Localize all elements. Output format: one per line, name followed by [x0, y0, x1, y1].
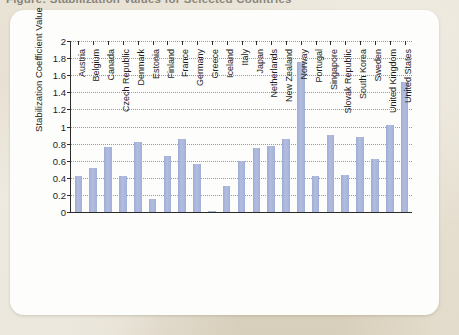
- bar: [327, 135, 335, 212]
- x-tick-label: Italy: [245, 32, 255, 49]
- x-tick-label: Germany: [200, 12, 210, 49]
- plot-area: 00.20.40.60.811.21.41.61.82 AustriaBelgi…: [70, 41, 412, 213]
- bar: [75, 176, 83, 212]
- bar: [371, 159, 379, 212]
- x-tick-label-text: Sweden: [373, 49, 383, 82]
- x-tick-label: United States: [408, 0, 418, 49]
- x-tick-label-text: Iceland: [225, 49, 235, 78]
- x-tick-label: South Korea: [363, 0, 373, 49]
- y-tick-mark: [67, 75, 71, 76]
- x-tick-mark: [108, 41, 109, 45]
- x-tick-label: Singapore: [334, 8, 344, 49]
- bar: [164, 156, 172, 212]
- x-tick-mark: [182, 41, 183, 45]
- y-tick-mark: [67, 178, 71, 179]
- y-tick-label: 1.4: [26, 88, 66, 98]
- y-tick-label: 1: [26, 123, 66, 133]
- bar: [223, 186, 231, 212]
- x-tick-mark: [227, 41, 228, 45]
- bar: [341, 175, 349, 212]
- bar: [178, 139, 186, 212]
- x-tick-label-text: Canada: [106, 49, 116, 81]
- x-tick-label: Estonia: [156, 19, 166, 49]
- x-tick-label: Austria: [82, 21, 92, 49]
- x-tick-label: Slovak Republic: [348, 0, 358, 49]
- x-tick-mark: [123, 41, 124, 45]
- x-tick-mark: [390, 41, 391, 45]
- x-tick-mark: [316, 41, 317, 45]
- x-tick-label: Finland: [171, 19, 181, 49]
- x-tick-label: Belgium: [96, 16, 106, 49]
- figure-caption: Figure: Stabilization Values for Selecte…: [6, 0, 292, 5]
- y-tick-mark: [67, 195, 71, 196]
- y-tick-label: 0.4: [26, 174, 66, 184]
- x-tick-mark: [345, 41, 346, 45]
- y-tick-label: 1.8: [26, 54, 66, 64]
- x-tick-mark: [375, 41, 376, 45]
- x-tick-mark: [78, 41, 79, 45]
- x-tick-label-text: Belgium: [91, 49, 101, 82]
- y-tick-label: 1.2: [26, 105, 66, 115]
- x-tick-label-text: France: [180, 49, 190, 77]
- x-tick-label-text: Slovak Republic: [343, 49, 353, 114]
- x-tick-label: United Kingdom: [393, 0, 403, 49]
- x-tick-label-text: Norway: [299, 49, 309, 80]
- x-tick-mark: [138, 41, 139, 45]
- x-tick-label: France: [185, 21, 195, 49]
- x-tick-label: Netherlands: [274, 0, 284, 49]
- bar: [253, 148, 261, 212]
- bar: [208, 211, 216, 212]
- bar: [89, 168, 97, 212]
- x-tick-label-text: Portugal: [314, 49, 324, 83]
- y-tick-mark: [67, 92, 71, 93]
- x-tick-label: Denmark: [141, 12, 151, 49]
- y-tick-label: 0: [26, 208, 66, 218]
- x-tick-label-text: Japan: [255, 49, 265, 74]
- x-tick-label: Canada: [111, 17, 121, 49]
- x-tick-mark: [286, 41, 287, 45]
- chart-card: Stabilization Coefficient Value 00.20.40…: [10, 10, 439, 315]
- x-tick-label-text: United Kingdom: [388, 49, 398, 113]
- bar: [356, 137, 364, 212]
- x-tick-label: Czech Republic: [126, 0, 136, 49]
- x-tick-mark: [271, 41, 272, 45]
- x-tick-label-text: New Zealand: [284, 49, 294, 102]
- cropped-caption-strip: Figure: Stabilization Values for Selecte…: [0, 0, 459, 9]
- bar-chart: Stabilization Coefficient Value 00.20.40…: [10, 10, 439, 315]
- bar: [104, 147, 112, 212]
- y-tick-mark: [67, 212, 71, 213]
- x-tick-label-text: United States: [403, 49, 413, 103]
- bar: [149, 199, 157, 212]
- bar: [282, 139, 290, 212]
- x-tick-label-text: Austria: [77, 49, 87, 77]
- bar: [312, 176, 320, 212]
- x-tick-mark: [242, 41, 243, 45]
- y-tick-mark: [67, 127, 71, 128]
- x-tick-label: Portugal: [319, 15, 329, 49]
- x-tick-label: Greece: [215, 19, 225, 49]
- x-tick-mark: [153, 41, 154, 45]
- x-tick-mark: [405, 41, 406, 45]
- bar: [297, 62, 305, 212]
- x-tick-mark: [301, 41, 302, 45]
- bar: [238, 161, 246, 212]
- x-tick-mark: [93, 41, 94, 45]
- x-tick-mark: [256, 41, 257, 45]
- x-tick-label-text: Germany: [195, 49, 205, 86]
- x-tick-mark: [360, 41, 361, 45]
- bar: [267, 146, 275, 212]
- x-tick-label-text: Netherlands: [269, 49, 279, 98]
- x-tick-label-text: Greece: [210, 49, 220, 79]
- x-tick-label: Norway: [304, 18, 314, 49]
- y-tick-label: 1.6: [26, 71, 66, 81]
- x-tick-mark: [212, 41, 213, 45]
- y-tick-label: 2: [26, 37, 66, 47]
- bar: [134, 142, 142, 212]
- x-tick-label-text: Czech Republic: [121, 49, 131, 112]
- x-tick-label-text: Finland: [166, 49, 176, 79]
- x-tick-label-text: Italy: [240, 49, 250, 66]
- x-tick-label-text: Estonia: [151, 49, 161, 79]
- x-tick-label: Iceland: [230, 20, 240, 49]
- x-tick-label: Japan: [260, 24, 270, 49]
- y-tick-label: 0.8: [26, 140, 66, 150]
